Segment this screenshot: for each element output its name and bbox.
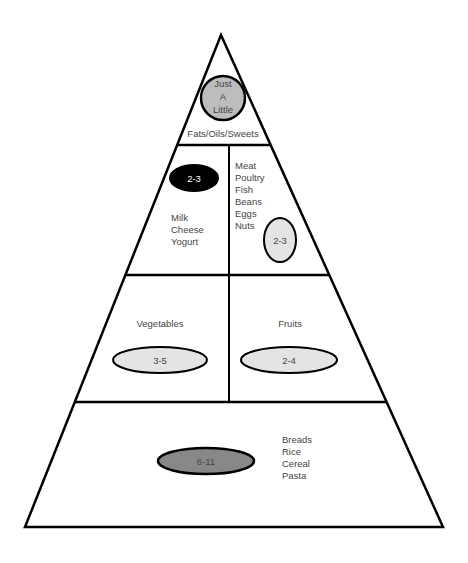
protein-item: Poultry xyxy=(235,172,265,183)
grains-servings: 6-11 xyxy=(197,456,215,467)
dairy-item: Yogurt xyxy=(171,236,198,247)
fruits-servings: 2-4 xyxy=(282,355,296,366)
vegetables-label: Vegetables xyxy=(136,318,183,329)
fats-servings-line2: A xyxy=(220,91,227,102)
protein-servings: 2-3 xyxy=(273,235,287,246)
protein-item: Eggs xyxy=(235,208,257,219)
fats-servings-line1: Just xyxy=(214,78,232,89)
vegetables-servings: 3-5 xyxy=(153,355,167,366)
grains-item: Breads xyxy=(282,434,312,445)
protein-item: Fish xyxy=(235,184,253,195)
fruits-label: Fruits xyxy=(278,318,302,329)
food-pyramid-diagram: Just A Little Fats/Oils/Sweets 2-3 Milk … xyxy=(0,0,468,563)
grains-item: Cereal xyxy=(282,458,310,469)
protein-item: Meat xyxy=(235,160,256,171)
grains-item: Rice xyxy=(282,446,301,457)
dairy-item: Cheese xyxy=(171,224,204,235)
dairy-item: Milk xyxy=(171,212,188,223)
grains-item: Pasta xyxy=(282,470,307,481)
fats-label: Fats/Oils/Sweets xyxy=(187,128,259,139)
dairy-servings: 2-3 xyxy=(187,173,201,184)
fats-servings-line3: Little xyxy=(213,104,233,115)
protein-item: Nuts xyxy=(235,220,255,231)
protein-item: Beans xyxy=(235,196,262,207)
